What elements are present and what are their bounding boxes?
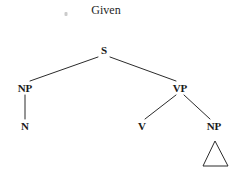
phrase-triangle [203,141,228,166]
tree-edge-vp-to-v [145,95,176,119]
tree-node-vp: VP [173,83,188,94]
tree-node-np-subj: NP [18,83,33,94]
tree-node-np-obj: NP [207,121,222,132]
scan-artifact-speck [65,12,68,16]
tree-node-v: V [138,121,146,132]
tree-edge-vp-to-np-obj [184,95,210,119]
tree-node-n: N [21,121,29,132]
tree-edges-canvas [0,0,240,169]
tree-edge-s-to-np-subj [30,57,98,81]
syntax-tree-diagram: Given SNPVPNVNP [0,0,240,169]
tree-node-s: S [101,45,107,56]
phrase-triangle-group [203,141,228,166]
tree-edge-s-to-vp [110,57,176,81]
